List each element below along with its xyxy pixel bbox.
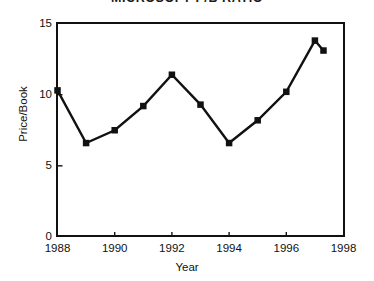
plot-frame [56,22,345,237]
chart-container: MICROSOFT P/B RATIO 051015 1988199019921… [0,0,374,281]
x-axis-tick-label: 1996 [256,243,316,255]
x-axis-tick-label: 1988 [28,243,88,255]
y-axis-tick-label: 15 [12,18,52,30]
y-axis-tick-label: 0 [12,231,52,243]
y-axis-title: Price/Book [17,59,29,169]
x-axis-tick-label: 1994 [199,243,259,255]
x-axis-tick-label: 1998 [314,243,374,255]
x-axis-tick-label: 1990 [85,243,145,255]
x-axis-tick-label: 1992 [142,243,202,255]
x-axis-title: Year [0,261,374,273]
chart-title: MICROSOFT P/B RATIO [0,0,374,5]
